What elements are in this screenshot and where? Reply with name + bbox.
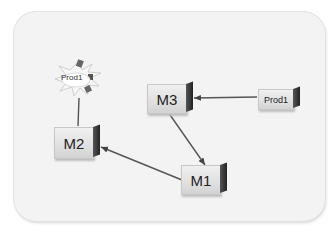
prod1-burst-node[interactable]: Prod1 xyxy=(52,58,104,100)
node-m3[interactable]: M3 xyxy=(147,84,187,114)
edge-m3-to-m1 xyxy=(168,112,205,165)
node-m1[interactable]: M1 xyxy=(181,165,221,195)
node-m2-side xyxy=(93,124,100,157)
edge-prod1-to-m3 xyxy=(194,97,257,98)
node-prod1-label: Prod1 xyxy=(264,95,288,105)
edges xyxy=(0,0,336,232)
prod1-burst-label: Prod1 xyxy=(61,73,82,82)
node-m3-side xyxy=(186,81,193,112)
node-m1-label: M1 xyxy=(191,172,212,189)
node-prod1[interactable]: Prod1 xyxy=(258,89,294,110)
edge-m1-to-m2 xyxy=(101,147,182,180)
node-prod1-side xyxy=(293,86,300,108)
node-m3-label: M3 xyxy=(157,91,178,108)
node-m2[interactable]: M2 xyxy=(54,127,94,159)
node-m1-side xyxy=(220,162,227,193)
node-m2-label: M2 xyxy=(64,135,85,152)
edge-m2-to-prod1 xyxy=(78,98,79,126)
